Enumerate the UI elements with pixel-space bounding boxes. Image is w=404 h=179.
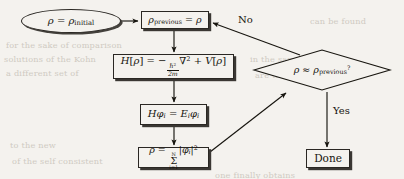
node-assign-previous-label: ρprevious = ρ [145,15,204,26]
node-eigenvalue-equation: Hφi = Eiφi [140,104,207,125]
node-start-label: ρ = ρinitial [48,15,94,27]
node-decision-label: ρ ≈ ρprevious? [252,48,392,92]
node-eigenvalue-label: Hφi = Eiφi [145,109,202,120]
node-hamiltonian: H[ρ] = −ℏ22m∇2 + V[ρ] [113,54,234,79]
edge-label-yes: Yes [333,105,350,116]
node-density-sum-label: ρ = NΣi=1|φi|2 [146,145,201,170]
node-start: ρ = ρinitial [21,9,121,33]
node-decision: ρ ≈ ρprevious? [252,48,392,92]
node-done-label: Done [311,153,345,164]
node-hamiltonian-label: H[ρ] = −ℏ22m∇2 + V[ρ] [118,56,229,77]
summation-operator: NΣi=1 [169,152,178,170]
node-density-sum: ρ = NΣi=1|φi|2 [138,147,209,168]
node-done: Done [306,149,350,168]
node-assign-previous: ρprevious = ρ [141,11,209,29]
edge-density-to-decision [210,93,286,152]
flowchart-canvas: can be found for the sake of comparison … [0,0,404,179]
edge-label-no: No [238,14,253,25]
hbar-fraction: ℏ22m [167,63,179,76]
